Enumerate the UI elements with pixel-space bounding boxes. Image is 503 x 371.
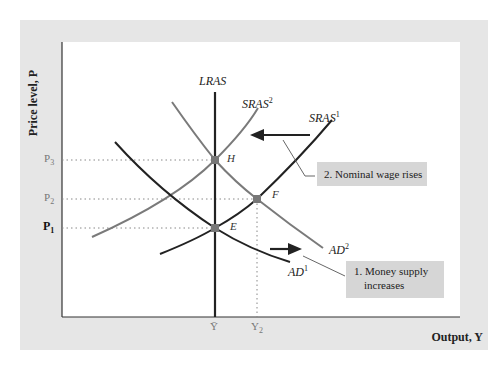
point-f-label: F — [272, 188, 279, 200]
sras2-label: SRAS2 — [242, 96, 273, 112]
sras1-label: SRAS1 — [309, 110, 340, 126]
note-money-supply-increases: 1. Money supply increases — [346, 261, 444, 298]
lras-label: LRAS — [199, 74, 226, 89]
point-h-label: H — [227, 152, 235, 164]
sras1-curve — [160, 120, 332, 254]
tick-ybar: Ȳ — [210, 320, 218, 332]
note-nominal-wage-rises: 2. Nominal wage rises — [317, 162, 427, 186]
ad-shift-arrowhead-icon — [288, 243, 302, 255]
y-axis-label: Price level, P — [22, 48, 44, 158]
point-e-marker — [211, 224, 219, 232]
tick-y2: Y2 — [251, 320, 263, 335]
tick-p2: P2 — [44, 191, 54, 206]
sras-shift-arrowhead-icon — [250, 129, 264, 141]
diagram-graphics — [0, 0, 503, 371]
ad2-label: AD2 — [329, 242, 349, 258]
ad1-label: AD1 — [288, 264, 308, 280]
tick-p1: P1 — [43, 219, 54, 235]
note1-leader — [303, 256, 345, 276]
point-f-marker — [253, 195, 261, 203]
tick-p3: P3 — [44, 152, 54, 167]
point-h-marker — [211, 156, 219, 164]
x-axis-label: Output, Y — [431, 330, 483, 345]
point-e-label: E — [230, 220, 237, 232]
